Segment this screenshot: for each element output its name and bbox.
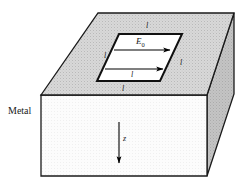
edge-length-label-right: l: [180, 59, 182, 67]
edge-length-label-top: l: [146, 22, 148, 30]
z-axis-label: z: [123, 135, 126, 143]
metal-block-figure: Metal E0 z l l l l l: [0, 0, 249, 190]
figure-canvas: [0, 0, 249, 190]
material-label: Metal: [8, 106, 31, 116]
field-subscript: 0: [142, 41, 145, 48]
field-label: E0: [136, 37, 145, 48]
edge-length-label-left: l: [104, 52, 106, 60]
edge-length-label-bottom-inside: l: [131, 71, 133, 79]
edge-length-label-bottom-outside: l: [122, 85, 124, 93]
